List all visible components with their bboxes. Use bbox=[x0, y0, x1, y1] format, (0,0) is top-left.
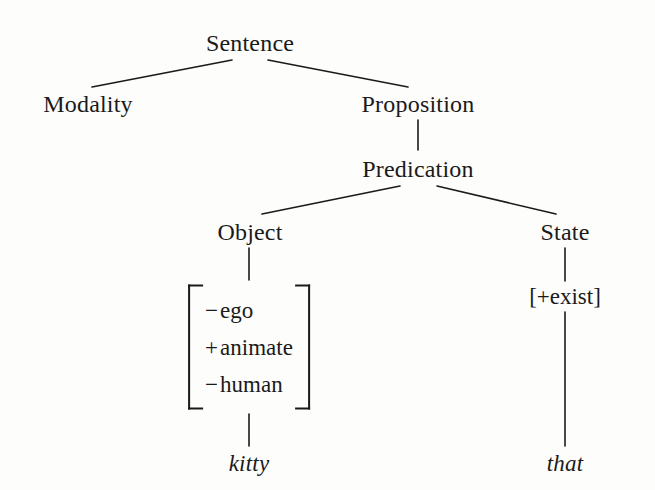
edge-predication-object bbox=[262, 186, 400, 214]
feature-sign: − bbox=[205, 299, 220, 322]
terminal-state-word: that bbox=[547, 452, 584, 475]
feature-label: animate bbox=[220, 335, 293, 360]
terminal-object-word: kitty bbox=[229, 452, 270, 475]
feature-row: −human bbox=[205, 366, 293, 403]
feature-row: +animate bbox=[205, 329, 293, 366]
bracket-right-icon bbox=[295, 285, 310, 410]
feature-sign: + bbox=[205, 336, 220, 359]
node-modality: Modality bbox=[43, 92, 133, 116]
feature-label: human bbox=[220, 372, 283, 397]
feature-label: ego bbox=[220, 298, 253, 323]
state-feature-bracket: [+exist] bbox=[529, 285, 601, 308]
node-proposition: Proposition bbox=[362, 92, 475, 116]
tree-edges bbox=[0, 0, 655, 490]
node-sentence: Sentence bbox=[206, 31, 294, 55]
edge-predication-state bbox=[437, 186, 556, 214]
feature-sign: − bbox=[205, 373, 220, 396]
edge-sentence-modality bbox=[92, 60, 232, 87]
feature-row: −ego bbox=[205, 292, 293, 329]
node-state: State bbox=[541, 220, 590, 244]
feature-matrix-rows: −ego +animate −human bbox=[203, 285, 295, 410]
bracket-left-icon bbox=[188, 285, 203, 410]
edge-sentence-proposition bbox=[268, 60, 408, 87]
node-predication: Predication bbox=[362, 157, 474, 181]
node-object: Object bbox=[217, 220, 282, 244]
tree-diagram-canvas: Sentence Modality Proposition Predicatio… bbox=[0, 0, 655, 490]
feature-matrix: −ego +animate −human bbox=[188, 285, 310, 410]
